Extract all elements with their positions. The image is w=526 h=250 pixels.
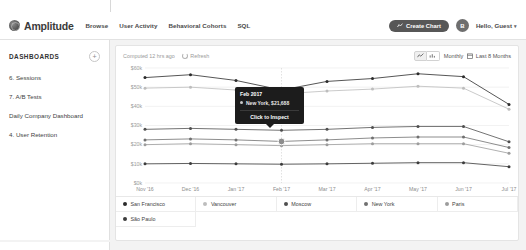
data-point[interactable] [189, 127, 192, 130]
data-point[interactable] [235, 143, 238, 146]
data-point[interactable] [235, 128, 238, 131]
data-point[interactable] [462, 136, 465, 139]
data-point[interactable] [144, 143, 147, 146]
y-axis-tick-label: $60k [131, 65, 143, 71]
data-point[interactable] [371, 142, 374, 145]
data-point[interactable] [508, 140, 511, 143]
chart-x-axis: Nov '16Dec '16Jan '17Feb '17Mar '17Apr '… [123, 185, 511, 196]
top-strip-divider [110, 0, 111, 12]
data-point[interactable] [144, 76, 147, 79]
refresh-button[interactable]: Refresh [182, 53, 209, 59]
data-point[interactable] [326, 80, 329, 83]
legend-item-san-francisco[interactable]: San Francisco [116, 197, 196, 212]
interval-selector[interactable]: Monthly [444, 53, 464, 59]
data-point[interactable] [417, 136, 420, 139]
avatar[interactable]: B [456, 19, 469, 32]
legend-item-paris[interactable]: Paris [438, 197, 518, 212]
bottom-bar [0, 242, 526, 250]
legend-item-moscow[interactable]: Moscow [277, 197, 357, 212]
data-point[interactable] [371, 162, 374, 165]
legend-item-vancouver[interactable]: Vancouver [196, 197, 276, 212]
brand[interactable]: Amplitude [9, 20, 74, 32]
chart-card: Computed 12 hrs ago Refresh [115, 45, 519, 241]
data-point[interactable] [508, 152, 511, 155]
x-axis-tick-label: Feb '17 [273, 186, 290, 192]
sidebar: DASHBOARDS + 6. Sessions 7. A/B Tests Da… [0, 40, 110, 240]
legend-item-new-york[interactable]: New York [357, 197, 437, 212]
data-point[interactable] [326, 138, 329, 141]
tooltip-series-dot [240, 101, 243, 104]
sidebar-item-user-retention[interactable]: 4. User Retention [9, 131, 100, 138]
nav-item-browse[interactable]: Browse [86, 22, 109, 29]
data-point[interactable] [462, 125, 465, 128]
amplitude-logo-icon [9, 20, 20, 31]
data-point[interactable] [326, 90, 329, 93]
data-point[interactable] [371, 136, 374, 139]
data-point[interactable] [417, 161, 420, 164]
tooltip-row: New York, $21,688 [240, 100, 299, 106]
legend-label: Paris [452, 201, 464, 207]
chevron-down-icon: ▾ [514, 23, 517, 29]
data-point[interactable] [508, 103, 511, 106]
view-line-chart-button[interactable] [414, 51, 427, 61]
data-point[interactable] [326, 162, 329, 165]
data-point[interactable] [144, 162, 147, 165]
data-point[interactable] [189, 142, 192, 145]
data-point[interactable] [462, 75, 465, 78]
legend-color-dot [364, 202, 368, 206]
view-bar-chart-button[interactable] [427, 51, 440, 61]
data-point[interactable] [508, 108, 511, 111]
data-point[interactable] [462, 87, 465, 90]
data-point[interactable] [371, 77, 374, 80]
sidebar-item-sessions[interactable]: 6. Sessions [9, 74, 100, 81]
data-point[interactable] [189, 86, 192, 89]
data-point[interactable] [235, 138, 238, 141]
data-point[interactable] [144, 128, 147, 131]
header-right: Create Chart B Hello, Guest▾ [389, 19, 517, 32]
series-line-san-francisco[interactable] [145, 74, 509, 105]
data-point[interactable] [280, 163, 283, 166]
data-point[interactable] [508, 165, 511, 168]
data-point[interactable] [371, 88, 374, 91]
data-point[interactable] [189, 73, 192, 76]
x-axis-tick-label: Mar '17 [318, 186, 335, 192]
chart-tooltip[interactable]: Feb 2017 New York, $21,688 Click to Insp… [235, 87, 304, 124]
nav-item-sql[interactable]: SQL [237, 22, 250, 29]
line-chart-svg[interactable]: $60k$50k$40k$30k$20k$10k$0k [123, 65, 513, 185]
sidebar-item-ab-tests[interactable]: 7. A/B Tests [9, 93, 100, 100]
data-point[interactable] [462, 161, 465, 164]
tooltip-action[interactable]: Click to Inspect [240, 114, 299, 120]
toolbar-right: Monthly Last 8 Months [414, 51, 511, 61]
x-axis-tick-label: Dec '16 [182, 186, 199, 192]
nav-item-user-activity[interactable]: User Activity [119, 22, 157, 29]
data-point[interactable] [417, 72, 420, 75]
data-point[interactable] [144, 87, 147, 90]
nav-item-behavioral-cohorts[interactable]: Behavioral Cohorts [168, 22, 226, 29]
data-point[interactable] [417, 125, 420, 128]
sidebar-item-daily-company-dashboard[interactable]: Daily Company Dashboard [9, 112, 100, 119]
user-menu[interactable]: Hello, Guest▾ [476, 22, 517, 29]
data-point[interactable] [235, 162, 238, 165]
data-point[interactable] [417, 85, 420, 88]
legend-item-s-o-paulo[interactable]: São Paulo [116, 212, 196, 227]
chart-plot-area[interactable]: $60k$50k$40k$30k$20k$10k$0k Feb 2017 New… [123, 65, 511, 185]
data-point[interactable] [462, 142, 465, 145]
chart-line-icon [397, 23, 403, 28]
create-chart-button[interactable]: Create Chart [389, 20, 449, 32]
data-point[interactable] [326, 128, 329, 131]
data-point[interactable] [417, 142, 420, 145]
legend-label: Vancouver [211, 201, 236, 207]
data-point[interactable] [189, 137, 192, 140]
data-point[interactable] [326, 143, 329, 146]
data-point[interactable] [280, 129, 283, 132]
data-point[interactable] [508, 146, 511, 149]
date-range-selector[interactable]: Last 8 Months [467, 53, 511, 59]
data-point[interactable] [371, 126, 374, 129]
legend-label: Moscow [291, 201, 311, 207]
data-point[interactable] [144, 138, 147, 141]
add-dashboard-button[interactable]: + [89, 51, 100, 62]
data-point[interactable] [235, 79, 238, 82]
create-chart-label: Create Chart [406, 23, 441, 29]
data-point[interactable] [189, 162, 192, 165]
x-axis-tick-label: Jun '17 [455, 186, 472, 192]
